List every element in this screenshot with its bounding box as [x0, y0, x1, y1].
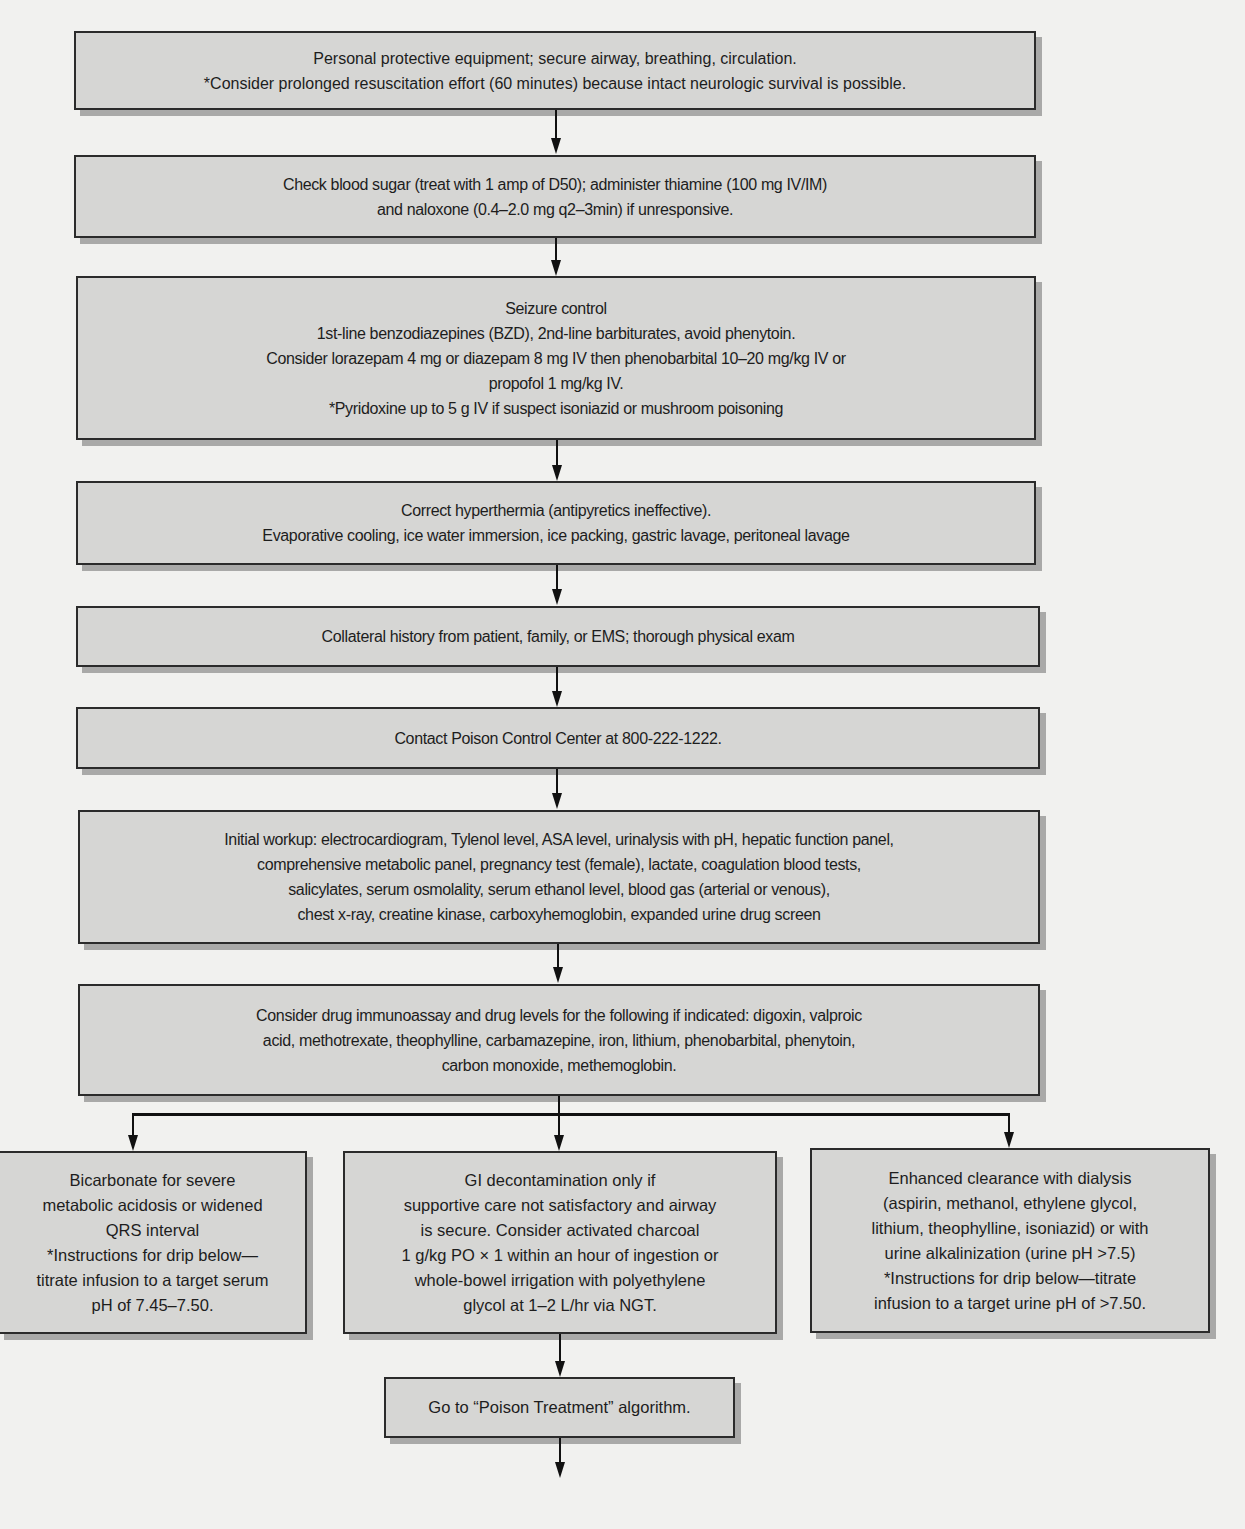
step-poison-control-box: Contact Poison Control Center at 800-222…	[76, 707, 1040, 769]
step-text: propofol 1 mg/kg IV.	[489, 371, 624, 396]
branch-text: metabolic acidosis or widened	[42, 1193, 262, 1218]
branch-text: is secure. Consider activated charcoal	[421, 1218, 700, 1243]
step-text: Contact Poison Control Center at 800-222…	[394, 726, 721, 751]
branch-text: urine alkalinization (urine pH >7.5)	[885, 1241, 1136, 1266]
step-workup-box: Initial workup: electrocardiogram, Tylen…	[78, 810, 1040, 944]
branch-text: whole-bowel irrigation with polyethylene	[415, 1268, 706, 1293]
arrow-down-icon	[552, 691, 562, 707]
step-text: carbon monoxide, methemoglobin.	[442, 1053, 677, 1078]
step-text: salicylates, serum osmolality, serum eth…	[288, 877, 830, 902]
step-drug-levels-box: Consider drug immunoassay and drug level…	[78, 984, 1040, 1096]
connector-line	[559, 1438, 561, 1464]
step-hyperthermia-box: Correct hyperthermia (antipyretics ineff…	[76, 481, 1036, 565]
connector-line	[557, 944, 559, 969]
step-text: Check blood sugar (treat with 1 amp of D…	[283, 172, 827, 197]
branch-text: QRS interval	[106, 1218, 200, 1243]
connector-line	[556, 667, 558, 693]
connector-line	[556, 440, 558, 467]
step-note: *Pyridoxine up to 5 g IV if suspect ison…	[329, 396, 783, 421]
connector-line	[559, 1334, 561, 1363]
branch-note: titrate infusion to a target serum	[36, 1268, 268, 1293]
connector-line	[556, 769, 558, 795]
arrow-down-icon	[555, 1361, 565, 1377]
step-text: Collateral history from patient, family,…	[322, 624, 795, 649]
step-ppe-box: Personal protective equipment; secure ai…	[74, 31, 1036, 110]
step-text: Correct hyperthermia (antipyretics ineff…	[401, 498, 711, 523]
arrow-down-icon	[1004, 1132, 1014, 1148]
step-text: comprehensive metabolic panel, pregnancy…	[257, 852, 861, 877]
arrow-down-icon	[552, 793, 562, 809]
connector-line	[132, 1113, 134, 1137]
step-text: acid, methotrexate, theophylline, carbam…	[263, 1028, 855, 1053]
branch-text: glycol at 1–2 L/hr via NGT.	[463, 1293, 657, 1318]
step-text: Personal protective equipment; secure ai…	[313, 46, 797, 71]
connector-line	[555, 238, 557, 262]
connector-line	[555, 110, 557, 140]
step-text: 1st-line benzodiazepines (BZD), 2nd-line…	[317, 321, 796, 346]
arrow-down-icon	[553, 967, 563, 983]
arrow-down-icon	[552, 465, 562, 481]
step-text: chest x-ray, creatine kinase, carboxyhem…	[297, 902, 820, 927]
step-text: *Consider prolonged resuscitation effort…	[204, 71, 906, 96]
branch-text: GI decontamination only if	[465, 1168, 656, 1193]
arrow-down-icon	[554, 1135, 564, 1151]
branch-note: pH of 7.45–7.50.	[91, 1293, 213, 1318]
arrow-down-icon	[555, 1462, 565, 1478]
step-title: Seizure control	[505, 296, 606, 321]
final-text: Go to “Poison Treatment” algorithm.	[428, 1395, 690, 1420]
branch-gi-decontamination-box: GI decontamination only if supportive ca…	[343, 1151, 777, 1334]
arrow-down-icon	[551, 138, 561, 154]
branch-note: *Instructions for drip below—	[47, 1243, 258, 1268]
step-text: Consider lorazepam 4 mg or diazepam 8 mg…	[266, 346, 845, 371]
step-history-box: Collateral history from patient, family,…	[76, 606, 1040, 667]
final-poison-treatment-box: Go to “Poison Treatment” algorithm.	[384, 1377, 735, 1438]
branch-bicarbonate-box: Bicarbonate for severe metabolic acidosi…	[0, 1151, 307, 1334]
branch-text: (aspirin, methanol, ethylene glycol,	[883, 1191, 1137, 1216]
branch-text: 1 g/kg PO × 1 within an hour of ingestio…	[402, 1243, 719, 1268]
arrow-down-icon	[128, 1135, 138, 1151]
step-text: and naloxone (0.4–2.0 mg q2–3min) if unr…	[377, 197, 733, 222]
arrow-down-icon	[552, 589, 562, 605]
branch-enhanced-clearance-box: Enhanced clearance with dialysis (aspiri…	[810, 1148, 1210, 1333]
step-blood-sugar-box: Check blood sugar (treat with 1 amp of D…	[74, 155, 1036, 238]
connector-line	[558, 1096, 560, 1136]
connector-line	[556, 565, 558, 591]
branch-text: Enhanced clearance with dialysis	[888, 1166, 1131, 1191]
branch-line	[132, 1113, 1010, 1116]
branch-text: lithium, theophylline, isoniazid) or wit…	[872, 1216, 1149, 1241]
step-text: Consider drug immunoassay and drug level…	[256, 1003, 862, 1028]
connector-line	[1008, 1113, 1010, 1134]
branch-text: supportive care not satisfactory and air…	[404, 1193, 717, 1218]
step-seizure-box: Seizure control 1st-line benzodiazepines…	[76, 276, 1036, 440]
arrow-down-icon	[551, 260, 561, 276]
step-text: Initial workup: electrocardiogram, Tylen…	[224, 827, 893, 852]
step-text: Evaporative cooling, ice water immersion…	[262, 523, 849, 548]
branch-note: *Instructions for drip below—titrate	[884, 1266, 1136, 1291]
branch-text: Bicarbonate for severe	[69, 1168, 235, 1193]
branch-note: infusion to a target urine pH of >7.50.	[874, 1291, 1146, 1316]
